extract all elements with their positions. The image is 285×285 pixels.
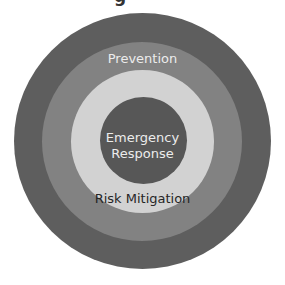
diagram-title-clipped: g [0,0,285,6]
risk-mitigation-label: Risk Mitigation [0,191,285,206]
response-label: Response [0,146,285,161]
emergency-label: Emergency [0,130,285,145]
prevention-label: Prevention [0,51,285,66]
